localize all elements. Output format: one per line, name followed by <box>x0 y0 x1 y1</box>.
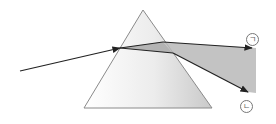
label-bottom-ray: ㄴ <box>240 100 253 113</box>
incident-ray <box>20 48 120 71</box>
label-top-ray: ㄱ <box>246 33 259 46</box>
prism-diagram <box>0 0 276 124</box>
